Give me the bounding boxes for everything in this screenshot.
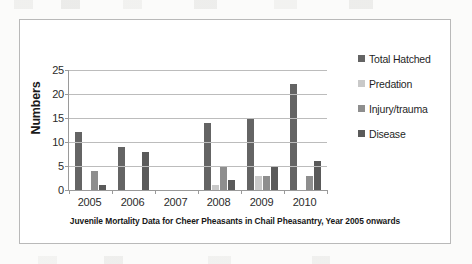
x-axis-tick-mark — [327, 190, 328, 194]
legend-label: Disease — [369, 128, 406, 140]
bar-2006-total-hatched — [118, 147, 125, 190]
y-axis-tick-mark — [65, 142, 69, 143]
page-scan-artifact-top — [0, 0, 472, 9]
y-axis-tick-label: 15 — [42, 112, 64, 124]
legend-swatch-icon — [358, 55, 365, 62]
legend-item-disease[interactable]: Disease — [358, 121, 450, 146]
legend-label: Total Hatched — [369, 53, 431, 65]
chart-caption: Juvenile Mortality Data for Cheer Pheasa… — [20, 216, 450, 226]
gridline — [69, 118, 327, 119]
x-axis-tick-labels: 200520062007200820092010 — [68, 196, 326, 208]
screenshot-root: Numbers 0510152025 200520062007200820092… — [0, 0, 472, 264]
legend-label: Predation — [369, 78, 412, 90]
y-axis-tick-mark — [65, 70, 69, 71]
gridline — [69, 166, 327, 167]
legend-swatch-icon — [358, 105, 365, 112]
bar-2009-injury-trauma — [263, 176, 270, 190]
bar-2006-disease — [142, 152, 149, 190]
y-axis-tick-labels: 0510152025 — [42, 70, 64, 190]
chart-frame: Numbers 0510152025 200520062007200820092… — [19, 19, 451, 244]
x-axis-tick-mark — [241, 190, 242, 194]
y-axis-title-text: Numbers — [29, 82, 43, 135]
y-axis-tick-mark — [65, 190, 69, 191]
x-axis-tick-label-2009: 2009 — [240, 196, 283, 208]
gridline — [69, 70, 327, 71]
y-axis-tick-label: 25 — [42, 64, 64, 76]
y-axis-tick-label: 5 — [42, 160, 64, 172]
bar-group-2008 — [198, 70, 241, 190]
legend-label: Injury/trauma — [369, 103, 428, 115]
bar-group-2007 — [155, 70, 198, 190]
bar-2010-injury-trauma — [306, 176, 313, 190]
x-axis-tick-label-2010: 2010 — [283, 196, 326, 208]
bar-groups — [69, 70, 327, 190]
y-axis-tick-mark — [65, 166, 69, 167]
legend-swatch-icon — [358, 130, 365, 137]
y-axis-tick-label: 20 — [42, 88, 64, 100]
x-axis-tick-label-2005: 2005 — [68, 196, 111, 208]
x-axis-tick-mark — [198, 190, 199, 194]
legend-item-total-hatched[interactable]: Total Hatched — [358, 46, 450, 71]
bar-group-2005 — [69, 70, 112, 190]
y-axis-tick-mark — [65, 94, 69, 95]
legend-item-injury-trauma[interactable]: Injury/trauma — [358, 96, 450, 121]
x-axis-tick-label-2006: 2006 — [111, 196, 154, 208]
bar-group-2010 — [284, 70, 327, 190]
bar-2009-disease — [271, 166, 278, 190]
chart-legend: Total HatchedPredationInjury/traumaDisea… — [358, 46, 450, 146]
bar-2009-predation — [255, 176, 262, 190]
bar-2010-total-hatched — [290, 84, 297, 190]
bar-2005-disease — [99, 185, 106, 190]
bar-2008-disease — [228, 180, 235, 190]
bar-2008-injury-trauma — [220, 166, 227, 190]
bar-2009-total-hatched — [247, 118, 254, 190]
page-scan-artifact-bottom — [0, 256, 472, 264]
x-axis-tick-mark — [69, 190, 70, 194]
bar-2008-total-hatched — [204, 123, 211, 190]
legend-swatch-icon — [358, 80, 365, 87]
y-axis-tick-mark — [65, 118, 69, 119]
bar-group-2006 — [112, 70, 155, 190]
plot-area-wrapper: Numbers 0510152025 200520062007200820092… — [20, 20, 360, 205]
gridline — [69, 142, 327, 143]
y-axis-tick-label: 10 — [42, 136, 64, 148]
gridline — [69, 94, 327, 95]
x-axis-tick-mark — [155, 190, 156, 194]
x-axis-tick-label-2007: 2007 — [154, 196, 197, 208]
bar-group-2009 — [241, 70, 284, 190]
bar-2005-injury-trauma — [91, 171, 98, 190]
y-axis-tick-label: 0 — [42, 184, 64, 196]
bar-2008-predation — [212, 185, 219, 190]
x-axis-tick-mark — [112, 190, 113, 194]
plot-area — [68, 70, 327, 191]
x-axis-tick-label-2008: 2008 — [197, 196, 240, 208]
legend-item-predation[interactable]: Predation — [358, 71, 450, 96]
x-axis-tick-mark — [284, 190, 285, 194]
